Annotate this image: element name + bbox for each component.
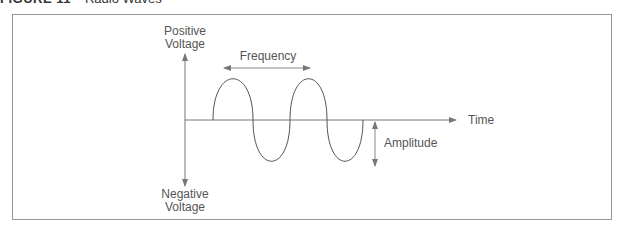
frequency-label: Frequency <box>240 49 297 63</box>
radio-wave-diagram: Positive Voltage Negative Voltage Freque… <box>0 0 619 227</box>
y-axis-bottom-label-line1: Negative <box>161 187 209 201</box>
y-axis-bottom-label-line2: Voltage <box>165 200 205 214</box>
time-label: Time <box>468 113 495 127</box>
amplitude-label: Amplitude <box>384 136 438 150</box>
y-axis-top-label-line2: Voltage <box>165 37 205 51</box>
y-axis-top-label-line1: Positive <box>164 24 206 38</box>
